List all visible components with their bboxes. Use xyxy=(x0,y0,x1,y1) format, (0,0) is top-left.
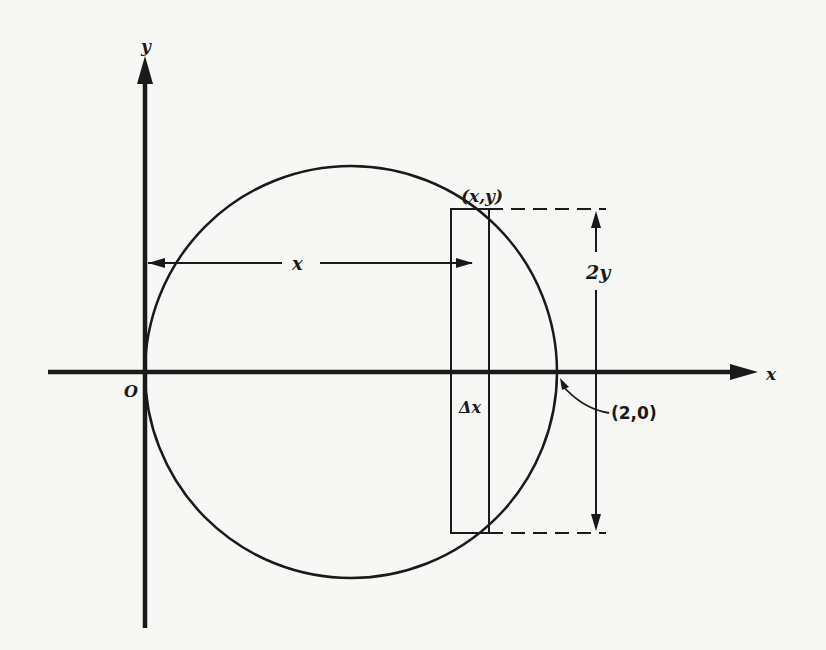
x-axis: x xyxy=(48,364,777,384)
origin-label: O xyxy=(124,382,138,401)
y-axis-label: y xyxy=(140,36,152,56)
width-label: Δx xyxy=(458,398,481,417)
left-arrow-icon xyxy=(148,258,165,268)
point-2-0-label: (2,0) xyxy=(611,403,657,423)
distance-dimension: x xyxy=(148,253,473,274)
x-axis-arrow-icon xyxy=(730,364,758,380)
point-2-0-callout: (2,0) xyxy=(560,378,657,423)
up-arrow-icon xyxy=(591,211,601,228)
y-axis-arrow-icon xyxy=(137,56,153,84)
circle-strip-diagram: y x O 2y x (x,y) Δx (2,0) xyxy=(0,0,826,650)
point-xy-label: (x,y) xyxy=(461,186,503,206)
y-axis: y xyxy=(137,36,153,628)
down-arrow-icon xyxy=(591,514,601,531)
height-label: 2y xyxy=(585,261,612,283)
x-axis-label: x xyxy=(765,364,777,384)
callout-arrow-icon xyxy=(560,378,569,390)
right-arrow-icon xyxy=(456,258,473,268)
distance-label: x xyxy=(291,253,303,274)
